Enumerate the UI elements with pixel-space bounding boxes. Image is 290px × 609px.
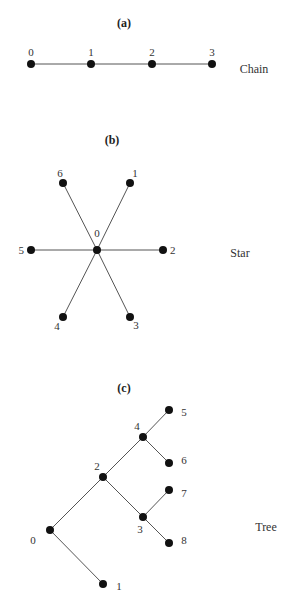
- node-6: [59, 179, 67, 187]
- node-label: 5: [19, 244, 25, 256]
- edge-4-6: [143, 437, 169, 463]
- node-4: [139, 433, 147, 441]
- node-1: [126, 179, 134, 187]
- panel-title: (a): [117, 16, 131, 30]
- node-2: [99, 473, 107, 481]
- topology-name: Chain: [240, 62, 269, 76]
- edge-0-3: [97, 250, 130, 317]
- node-0: [46, 526, 54, 534]
- node-label: 1: [88, 46, 94, 58]
- node-1: [99, 580, 107, 588]
- edge-2-3: [103, 477, 143, 517]
- node-label: 0: [28, 46, 34, 58]
- edge-0-1: [50, 530, 103, 584]
- node-label: 5: [181, 406, 187, 418]
- edge-0-2: [50, 477, 103, 530]
- node-3: [139, 513, 147, 521]
- edge-0-1: [97, 183, 130, 250]
- node-2: [159, 246, 167, 254]
- node-label: 3: [137, 523, 143, 535]
- node-label: 7: [181, 487, 187, 499]
- node-6: [165, 459, 173, 467]
- node-label: 6: [57, 167, 63, 179]
- edge-3-7: [143, 490, 169, 517]
- edge-2-4: [103, 437, 143, 477]
- node-label: 3: [133, 319, 139, 331]
- panel-b: 0123456(b)Star: [19, 133, 250, 332]
- node-0: [27, 60, 35, 68]
- node-5: [165, 406, 173, 414]
- panel-a: 0123(a)Chain: [27, 16, 268, 76]
- node-0: [93, 246, 101, 254]
- node-2: [148, 60, 156, 68]
- node-label: 1: [132, 167, 138, 179]
- node-label: 4: [134, 420, 140, 432]
- panel-title: (b): [105, 133, 120, 147]
- node-label: 0: [94, 227, 100, 239]
- node-5: [27, 246, 35, 254]
- node-7: [165, 486, 173, 494]
- panel-title: (c): [117, 381, 130, 395]
- node-4: [59, 313, 67, 321]
- node-8: [165, 539, 173, 547]
- node-label: 4: [54, 320, 60, 332]
- node-label: 8: [181, 534, 187, 546]
- node-3: [208, 60, 216, 68]
- edge-3-8: [143, 517, 169, 543]
- node-label: 2: [149, 46, 155, 58]
- edge-0-4: [63, 250, 97, 317]
- panel-c: 012345678(c)Tree: [30, 381, 277, 592]
- topology-name: Star: [230, 246, 249, 260]
- graph-topologies-diagram: 0123(a)Chain0123456(b)Star012345678(c)Tr…: [0, 0, 290, 609]
- node-label: 0: [30, 534, 36, 546]
- edge-0-6: [63, 183, 97, 250]
- edge-4-5: [143, 410, 169, 437]
- node-label: 2: [170, 244, 176, 256]
- node-1: [87, 60, 95, 68]
- node-label: 6: [181, 454, 187, 466]
- node-label: 2: [94, 460, 100, 472]
- topology-name: Tree: [255, 520, 277, 534]
- node-label: 3: [209, 46, 215, 58]
- node-label: 1: [116, 580, 122, 592]
